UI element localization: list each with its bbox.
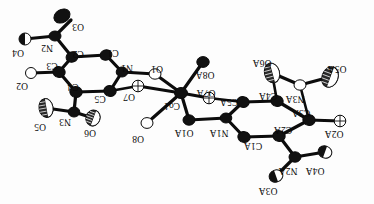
- atom-label-o5a: O5A: [328, 64, 347, 74]
- ellipsoid-shaded-octant: [19, 33, 25, 45]
- atom-label-o2a: O2A: [325, 129, 344, 139]
- atom-n3: [68, 107, 80, 117]
- atom-label-c1a: C1A: [244, 141, 262, 151]
- atom-label-c4a: C4A: [259, 91, 277, 101]
- thermal-ellipsoid: [183, 115, 195, 125]
- thermal-ellipsoid: [197, 57, 209, 68]
- atom-label-o4a: O4A: [306, 166, 325, 176]
- atom-o1a: [183, 115, 195, 125]
- ortep-structure-svg: O3N2O4C2C1C3O2N1C4C5O1O7N3O5O6Co1O8AO7AO…: [0, 0, 374, 204]
- atom-label-o5: O5: [34, 122, 46, 132]
- atom-label-c1: C1: [107, 48, 118, 58]
- atom-label-o7: O7: [123, 92, 135, 102]
- atom-label-o4: O4: [12, 48, 24, 58]
- atom-label-co1: Co1: [164, 101, 180, 111]
- atom-o6: [84, 108, 103, 128]
- atom-o8a: [197, 57, 209, 68]
- atom-label-o7a: O7A: [197, 88, 216, 98]
- thermal-ellipsoid: [294, 80, 306, 90]
- thermal-ellipsoid: [49, 31, 61, 41]
- atom-label-c5: C5: [94, 94, 105, 104]
- atom-o4a: [316, 144, 333, 160]
- atom-label-o1: O1: [151, 64, 163, 74]
- atom-o2a: [334, 115, 346, 127]
- thermal-ellipsoid: [175, 88, 188, 99]
- atom-n2: [49, 31, 61, 41]
- atom-label-c3: C3: [46, 61, 57, 71]
- atom-label-n2a: N2A: [279, 166, 298, 176]
- atom-label-c4: C4: [67, 82, 78, 92]
- thermal-ellipsoid: [220, 113, 232, 123]
- atom-n3a: [294, 80, 306, 90]
- thermal-ellipsoid: [26, 68, 37, 79]
- atom-label-c2: C2: [72, 49, 83, 59]
- atom-label-n1a: N1A: [210, 128, 229, 138]
- atom-o4: [19, 33, 31, 45]
- atom-label-c2a: C2A: [274, 125, 292, 135]
- atom-label-c5a: C5A: [220, 97, 238, 107]
- atom-o7: [132, 80, 144, 92]
- thermal-ellipsoid: [68, 107, 80, 117]
- thermal-ellipsoid: [289, 152, 301, 162]
- atom-label-o6: O6: [84, 128, 96, 138]
- atom-label-o3a: O3A: [259, 186, 278, 196]
- atom-co1: [175, 88, 188, 99]
- atom-label-n3a: N3A: [286, 94, 305, 104]
- atom-n1a: [220, 113, 232, 123]
- atom-label-o3: O3: [72, 22, 84, 32]
- ortep-figure-canvas: O3N2O4C2C1C3O2N1C4C5O1O7N3O5O6Co1O8AO7AO…: [0, 0, 374, 204]
- atom-label-o8a: O8A: [196, 70, 215, 80]
- atom-label-o6a: O6A: [253, 58, 272, 68]
- atom-label-c3a: C3A: [292, 108, 310, 118]
- atom-n2a: [289, 152, 301, 162]
- thermal-ellipsoid: [141, 118, 153, 129]
- atom-label-n3: N3: [59, 117, 71, 127]
- atom-o5: [37, 97, 54, 118]
- atom-label-o8: O8: [132, 134, 144, 144]
- atom-label-n2: N2: [41, 43, 53, 53]
- atom-label-n1: N1: [121, 63, 133, 73]
- atom-o2: [26, 68, 37, 79]
- atom-o8: [141, 118, 153, 129]
- atom-label-o2: O2: [16, 81, 28, 91]
- atom-label-o1a: O1A: [175, 128, 194, 138]
